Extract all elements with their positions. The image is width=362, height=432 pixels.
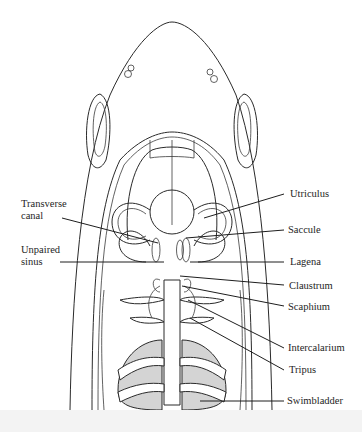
label-saccule: Saccule xyxy=(288,224,321,236)
vertebral-column xyxy=(164,280,180,405)
label-lagena: Lagena xyxy=(290,256,321,268)
label-intercalarium: Intercalarium xyxy=(288,342,345,354)
nostril-right xyxy=(207,69,218,83)
label-unpaired-sinus-line2: sinus xyxy=(21,256,60,268)
nostril-left xyxy=(125,65,135,78)
label-transverse-canal: Transverse canal xyxy=(21,198,67,222)
bottom-margin xyxy=(0,410,362,432)
label-unpaired-sinus-line1: Unpaired xyxy=(21,244,60,256)
label-transverse-canal-line2: canal xyxy=(21,210,67,222)
leader-saccule xyxy=(186,230,284,238)
label-unpaired-sinus: Unpaired sinus xyxy=(21,244,60,268)
label-scaphium: Scaphium xyxy=(288,301,330,313)
label-tripus: Tripus xyxy=(289,364,316,376)
label-utriculus: Utriculus xyxy=(290,188,329,200)
leader-transverse-canal xyxy=(62,218,158,243)
label-transverse-canal-line1: Transverse xyxy=(21,198,67,210)
leader-claustrum xyxy=(180,276,284,285)
label-claustrum: Claustrum xyxy=(289,280,333,292)
label-swimbladder: Swimbladder xyxy=(287,395,343,407)
